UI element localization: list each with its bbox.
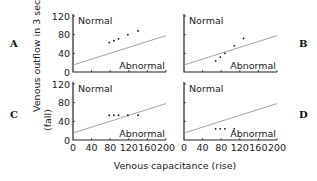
data-point — [108, 42, 110, 44]
data-point — [219, 128, 221, 130]
abnormal-region-label: Abnormal — [230, 60, 276, 71]
x-tick-label: 160 — [249, 142, 267, 153]
x-tick-label: 80 — [104, 142, 116, 153]
data-point — [127, 114, 129, 116]
abnormal-region-label: Abnormal — [230, 128, 276, 139]
x-tick-label: 40 — [197, 142, 209, 153]
x-tick-label: 200 — [157, 142, 175, 153]
panels-container: NormalAbnormal04080120ANormalAbnormalBNo… — [9, 11, 308, 154]
panel-letter-a: A — [9, 38, 18, 49]
x-tick-label: 80 — [215, 142, 227, 153]
data-point — [137, 30, 139, 32]
y-tick-label: 120 — [52, 79, 70, 90]
panel-d: NormalAbnormal04080120160200D — [181, 82, 308, 153]
x-axis-label: Venous capacitance (rise) — [114, 160, 237, 171]
data-point — [108, 114, 110, 116]
normal-region-label: Normal — [189, 83, 223, 94]
y-tick-label: 80 — [58, 29, 70, 40]
abnormal-region-label: Abnormal — [119, 60, 165, 71]
venous-outflow-figure: NormalAbnormal04080120ANormalAbnormalBNo… — [0, 0, 317, 181]
data-point — [224, 128, 226, 130]
panel-letter-c: C — [10, 109, 18, 120]
data-point — [233, 45, 235, 47]
data-point — [224, 52, 226, 54]
y-tick-label: 0 — [64, 67, 70, 78]
x-tick-label: 160 — [138, 142, 156, 153]
y-axis-label-line1: Venous outflow in 3 seconds — [31, 0, 42, 112]
y-axis-label-2: (fall) — [42, 109, 53, 131]
abnormal-region-label: Abnormal — [119, 128, 165, 139]
data-point — [127, 34, 129, 36]
x-tick-label: 0 — [181, 142, 187, 153]
data-point — [113, 40, 115, 42]
panel-letter-b: B — [299, 38, 307, 49]
y-tick-label: 40 — [58, 48, 70, 59]
x-tick-label: 120 — [231, 142, 249, 153]
data-point — [243, 38, 245, 40]
panel-letter-d: D — [299, 109, 308, 120]
data-point — [118, 114, 120, 116]
y-axis-label-line2: (fall) — [42, 109, 53, 131]
data-point — [137, 114, 139, 116]
data-point — [215, 60, 217, 62]
normal-region-label: Normal — [78, 15, 112, 26]
y-tick-label: 120 — [52, 11, 70, 22]
x-tick-label: 40 — [86, 142, 98, 153]
x-tick-label: 120 — [120, 142, 138, 153]
x-tick-label: 200 — [268, 142, 286, 153]
y-tick-label: 80 — [58, 97, 70, 108]
normal-region-label: Normal — [78, 83, 112, 94]
data-point — [113, 114, 115, 116]
normal-region-label: Normal — [189, 15, 223, 26]
x-tick-label: 0 — [70, 142, 76, 153]
data-point — [118, 38, 120, 40]
y-axis-label: Venous outflow in 3 seconds — [31, 0, 42, 112]
data-point — [215, 128, 217, 130]
y-tick-label: 40 — [58, 116, 70, 127]
data-point — [219, 56, 221, 58]
panel-b: NormalAbnormalB — [184, 14, 307, 72]
